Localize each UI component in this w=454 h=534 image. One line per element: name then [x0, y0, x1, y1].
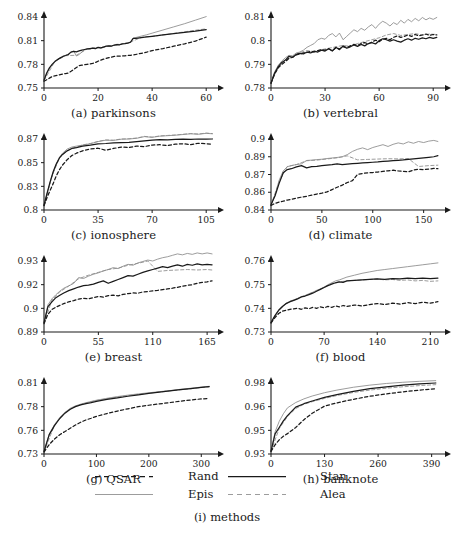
svg-text:105: 105 [197, 214, 215, 225]
svg-text:0: 0 [41, 214, 47, 225]
svg-text:60: 60 [200, 92, 212, 103]
svg-text:0: 0 [268, 214, 274, 225]
svg-text:0.83: 0.83 [18, 181, 39, 192]
chart-panel-e: 0.890.90.920.93055110165 (e) breast [0, 250, 227, 374]
svg-text:0.78: 0.78 [245, 82, 266, 93]
plot-area-c: 0.80.830.850.8703570105 [0, 128, 227, 232]
svg-text:0.73: 0.73 [245, 326, 266, 337]
svg-text:0.87: 0.87 [245, 169, 266, 180]
svg-text:0.75: 0.75 [18, 82, 39, 93]
svg-text:140: 140 [368, 336, 386, 347]
legend-swatches: RandStanEpisAlea [0, 466, 454, 510]
svg-text:70: 70 [318, 336, 330, 347]
svg-text:0.89: 0.89 [18, 326, 39, 337]
panel-caption-e: (e) breast [0, 350, 227, 364]
plot-area-g: 0.730.760.780.810100200300 [0, 372, 227, 476]
svg-text:0.73: 0.73 [18, 448, 39, 459]
chart-panel-a: 0.750.780.810.840204060 (a) parkinsons [0, 6, 227, 130]
svg-text:0.86: 0.86 [245, 186, 266, 197]
svg-text:0: 0 [268, 92, 274, 103]
svg-text:0.81: 0.81 [245, 11, 265, 22]
svg-text:0.9: 0.9 [250, 133, 265, 144]
svg-text:0.79: 0.79 [245, 59, 266, 70]
svg-text:Alea: Alea [319, 487, 346, 501]
svg-text:0.93: 0.93 [18, 255, 39, 266]
svg-text:0.85: 0.85 [18, 157, 39, 168]
svg-text:0.93: 0.93 [245, 448, 266, 459]
panel-caption-b: (b) vertebral [227, 106, 454, 120]
plot-area-d: 0.840.860.870.890.9050100150 [227, 128, 454, 232]
svg-text:Rand: Rand [188, 469, 219, 483]
svg-text:0.98: 0.98 [245, 377, 266, 388]
svg-text:0.78: 0.78 [18, 401, 39, 412]
panel-caption-d: (d) climate [227, 228, 454, 242]
svg-text:Epis: Epis [188, 487, 213, 501]
svg-text:0: 0 [41, 92, 47, 103]
panel-caption-f: (f) blood [227, 350, 454, 364]
svg-text:0.8: 0.8 [250, 35, 265, 46]
legend: RandStanEpisAlea (i) methods [0, 466, 454, 534]
figure-root: 0.750.780.810.840204060 (a) parkinsons 0… [0, 0, 454, 534]
svg-text:100: 100 [364, 214, 382, 225]
plot-area-f: 0.730.740.750.76070140210 [227, 250, 454, 354]
svg-text:0.92: 0.92 [18, 279, 38, 290]
svg-text:90: 90 [427, 92, 439, 103]
svg-text:110: 110 [144, 336, 162, 347]
svg-text:40: 40 [146, 92, 158, 103]
svg-text:0.96: 0.96 [245, 401, 266, 412]
svg-text:0.81: 0.81 [18, 377, 38, 388]
svg-text:0.81: 0.81 [18, 35, 38, 46]
svg-text:Stan: Stan [320, 469, 347, 483]
svg-text:20: 20 [92, 92, 104, 103]
svg-text:0.78: 0.78 [18, 59, 39, 70]
svg-text:0: 0 [41, 336, 47, 347]
plot-area-b: 0.780.790.80.810306090 [227, 6, 454, 110]
svg-text:0.74: 0.74 [245, 303, 266, 314]
svg-text:0.84: 0.84 [18, 11, 39, 22]
svg-text:210: 210 [422, 336, 440, 347]
svg-text:30: 30 [319, 92, 331, 103]
svg-text:35: 35 [92, 214, 104, 225]
svg-text:55: 55 [93, 336, 105, 347]
panel-caption-c: (c) ionosphere [0, 228, 227, 242]
svg-text:50: 50 [316, 214, 328, 225]
svg-text:70: 70 [146, 214, 158, 225]
svg-text:0.9: 0.9 [23, 303, 38, 314]
svg-text:60: 60 [373, 92, 385, 103]
svg-text:0.95: 0.95 [245, 425, 266, 436]
svg-text:150: 150 [415, 214, 433, 225]
plot-area-h: 0.930.950.960.980130260390 [227, 372, 454, 476]
chart-panel-f: 0.730.740.750.76070140210 (f) blood [227, 250, 454, 374]
svg-text:0.8: 0.8 [23, 204, 38, 215]
svg-text:0.84: 0.84 [245, 204, 266, 215]
svg-text:0.87: 0.87 [18, 133, 39, 144]
svg-text:0.75: 0.75 [245, 279, 266, 290]
legend-caption: (i) methods [0, 510, 454, 524]
svg-text:165: 165 [198, 336, 216, 347]
chart-panel-c: 0.80.830.850.8703570105 (c) ionosphere [0, 128, 227, 252]
svg-text:0.76: 0.76 [245, 255, 266, 266]
panel-caption-a: (a) parkinsons [0, 106, 227, 120]
chart-panel-b: 0.780.790.80.810306090 (b) vertebral [227, 6, 454, 130]
svg-text:0: 0 [268, 336, 274, 347]
plot-area-e: 0.890.90.920.93055110165 [0, 250, 227, 354]
chart-panel-d: 0.840.860.870.890.9050100150 (d) climate [227, 128, 454, 252]
svg-text:0.76: 0.76 [18, 425, 39, 436]
svg-text:0.89: 0.89 [245, 151, 266, 162]
plot-area-a: 0.750.780.810.840204060 [0, 6, 227, 110]
